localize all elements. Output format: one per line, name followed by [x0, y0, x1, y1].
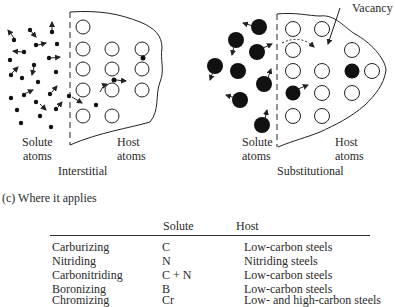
process-cell: Carbonitriding — [52, 268, 123, 283]
process-cell: Chromizing — [52, 293, 109, 307]
substitutional-title: Substitutional — [277, 164, 344, 178]
column-header-host: Host — [236, 219, 259, 234]
host-cell: Low-carbon steels — [244, 240, 332, 255]
host-cell: Low-carbon steels — [244, 268, 332, 283]
svg-text:atoms: atoms — [117, 149, 146, 163]
svg-text:atoms: atoms — [242, 149, 271, 163]
substitutional-solute-label: Solute — [242, 135, 273, 149]
interstitial-title: Interstitial — [58, 164, 108, 178]
solute-cell: C — [162, 240, 170, 255]
substitutional-host-label: Host — [335, 135, 358, 149]
header-rule — [50, 235, 370, 236]
substituted-solute-atoms — [286, 64, 360, 101]
host-atoms — [76, 20, 149, 123]
substitutional-diagram: Vacancy Solute atoms Host atoms Substitu… — [207, 1, 393, 178]
solute-cell: C + N — [162, 268, 191, 283]
host-cell: Low- and high-carbon steels — [244, 293, 381, 307]
svg-text:atoms: atoms — [23, 149, 52, 163]
process-cell: Carburizing — [52, 240, 109, 255]
solute-atoms — [207, 19, 272, 133]
diffusion-diagrams: Solute atoms Host atoms Interstitial — [0, 0, 395, 190]
host-boundary — [70, 11, 162, 145]
vacancy-label: Vacancy — [352, 1, 393, 15]
svg-text:atoms: atoms — [335, 149, 364, 163]
host-atoms — [286, 22, 380, 124]
interstitial-host-label: Host — [117, 135, 140, 149]
interstitial-solute-label: Solute — [22, 135, 53, 149]
column-header-solute: Solute — [163, 219, 194, 234]
process-cell: Nitriding — [52, 254, 96, 269]
host-cell: Nitriding steels — [244, 254, 318, 269]
interstitial-diagram: Solute atoms Host atoms Interstitial — [8, 11, 163, 178]
table-caption: (c) Where it applies — [2, 191, 97, 206]
solute-cell: Cr — [162, 293, 174, 307]
solute-cell: N — [162, 254, 171, 269]
